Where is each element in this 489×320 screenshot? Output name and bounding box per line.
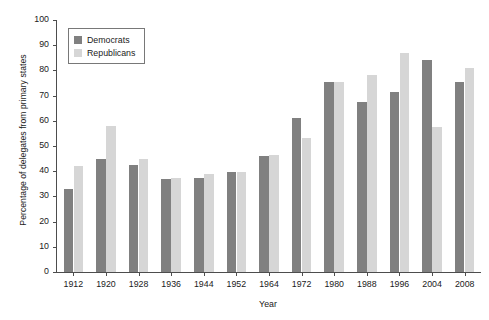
bar-democrats-1944 [194,178,204,272]
y-axis-tick-mark [53,222,57,223]
y-axis-tick-label: 50 [9,140,49,150]
x-axis-tick-mark [204,272,205,276]
x-axis-tick-mark [367,272,368,276]
legend-item-democrats: Democrats [74,33,135,46]
y-axis-tick-mark [53,171,57,172]
x-axis-tick-mark [399,272,400,276]
bar-democrats-1920 [96,159,106,272]
legend-label: Democrats [87,35,130,45]
y-axis-tick-label: 40 [9,165,49,175]
x-axis-tick-mark [73,272,74,276]
y-axis-tick-label: 20 [9,216,49,226]
bar-democrats-2008 [455,82,465,272]
bar-republicans-1952 [237,172,247,272]
bar-republicans-1972 [302,138,312,272]
y-axis-tick-label: 10 [9,241,49,251]
x-axis-tick-mark [269,272,270,276]
bar-republicans-1928 [139,159,149,272]
bar-democrats-1952 [227,172,237,272]
bar-republicans-1936 [171,178,181,273]
bar-democrats-1972 [292,118,302,272]
bar-republicans-2004 [432,127,442,272]
bar-republicans-1920 [106,126,116,272]
y-axis-tick-mark [53,70,57,71]
bar-republicans-1980 [334,82,344,272]
bar-republicans-1996 [400,53,410,272]
x-axis-tick-mark [465,272,466,276]
bar-republicans-2008 [465,68,475,272]
x-axis-tick-mark [236,272,237,276]
x-axis-tick-mark [106,272,107,276]
y-axis-tick-mark [53,146,57,147]
y-axis-tick-mark [53,196,57,197]
x-axis-tick-mark [171,272,172,276]
bar-republicans-1964 [269,155,279,272]
y-axis-tick-mark [53,96,57,97]
bar-democrats-1996 [390,92,400,272]
legend-item-republicans: Republicans [74,46,135,59]
bar-republicans-1912 [74,166,84,272]
bar-democrats-2004 [422,60,432,272]
chart-legend: DemocratsRepublicans [68,28,145,64]
y-axis-tick-label: 70 [9,90,49,100]
y-axis-tick-label: 100 [9,14,49,24]
legend-label: Republicans [87,48,135,58]
bar-chart: Percentage of delegates from primary sta… [0,0,489,320]
x-axis-tick-mark [334,272,335,276]
bar-democrats-1936 [161,179,171,272]
y-axis-tick-mark [53,247,57,248]
bar-democrats-1988 [357,102,367,272]
y-axis-tick-label: 0 [9,266,49,276]
y-axis-tick-mark [53,121,57,122]
bar-republicans-1944 [204,174,214,272]
y-axis-tick-label: 30 [9,190,49,200]
y-axis-tick-label: 90 [9,39,49,49]
x-axis-tick-mark [432,272,433,276]
y-axis-tick-label: 60 [9,115,49,125]
y-axis-tick-label: 80 [9,64,49,74]
x-axis-title: Year [56,299,480,309]
bar-democrats-1912 [64,189,74,272]
legend-swatch-icon [74,49,82,57]
bar-democrats-1964 [259,156,269,272]
y-axis-tick-mark [53,272,57,273]
bar-republicans-1988 [367,75,377,272]
x-axis-tick-mark [302,272,303,276]
x-axis-tick-label: 2008 [443,279,487,289]
y-axis-tick-mark [53,45,57,46]
bar-democrats-1980 [324,82,334,272]
x-axis-tick-mark [139,272,140,276]
legend-swatch-icon [74,36,82,44]
y-axis-tick-mark [53,20,57,21]
bar-democrats-1928 [129,165,139,272]
